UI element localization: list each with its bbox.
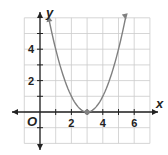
y-axis-arrow-down-icon: [37, 144, 43, 150]
x-axis-arrow-left-icon: [12, 109, 18, 115]
y-axis-arrow-icon: [37, 12, 43, 18]
y-axis-label: y: [45, 5, 54, 20]
x-tick-label: 2: [68, 117, 74, 129]
vertex-point: [85, 109, 90, 114]
tick-labels: 24624: [28, 43, 137, 129]
y-tick-label: 4: [28, 43, 35, 55]
x-tick-label: 4: [100, 117, 107, 129]
x-tick-label: 6: [131, 117, 137, 129]
y-tick-label: 2: [28, 75, 34, 87]
parabola-graph: y x O 24624: [0, 0, 168, 155]
x-axis-label: x: [155, 96, 164, 111]
origin-label: O: [27, 114, 37, 129]
